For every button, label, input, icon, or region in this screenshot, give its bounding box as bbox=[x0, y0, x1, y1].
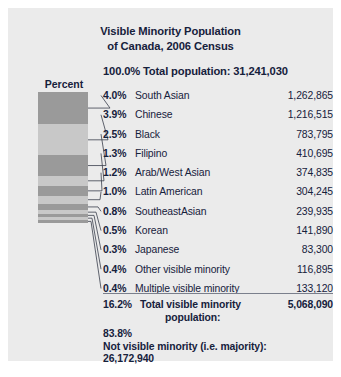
leader-line bbox=[88, 218, 101, 269]
percent-axis-label: Percent bbox=[36, 78, 92, 90]
bar-segment bbox=[38, 186, 88, 196]
row-count: 239,935 bbox=[296, 206, 333, 217]
row-category: Black bbox=[135, 129, 160, 140]
table-row: 2.5%Black783,795 bbox=[103, 129, 333, 148]
row-category: Arab/West Asian bbox=[135, 167, 210, 178]
leader-line bbox=[88, 215, 101, 250]
row-category: Chinese bbox=[135, 109, 172, 120]
row-count: 1,216,515 bbox=[288, 109, 333, 120]
total-label-line-1: Total visible minority bbox=[140, 299, 241, 310]
not-visible-minority-block: 83.8% Not visible minority (i.e. majorit… bbox=[103, 328, 333, 366]
row-count: 410,695 bbox=[296, 148, 333, 159]
bar-segment bbox=[38, 92, 88, 124]
data-row-list: 4.0%South Asian1,262,8653.9%Chinese1,216… bbox=[103, 90, 333, 302]
table-row: 4.0%South Asian1,262,865 bbox=[103, 90, 333, 109]
row-percent: 2.5% bbox=[103, 129, 126, 140]
bar-segment bbox=[38, 155, 88, 175]
row-percent: 4.0% bbox=[103, 90, 126, 101]
majority-value: 26,172,940 bbox=[103, 353, 333, 366]
leader-line bbox=[88, 192, 101, 200]
row-count: 83,300 bbox=[302, 244, 333, 255]
row-category: Latin American bbox=[135, 186, 202, 197]
figure-panel: Visible Minority Population of Canada, 2… bbox=[8, 8, 333, 361]
bar-segment bbox=[38, 176, 88, 186]
row-percent: 3.9% bbox=[103, 109, 126, 120]
row-count: 141,890 bbox=[296, 225, 333, 236]
total-percent: 16.2% bbox=[103, 299, 132, 310]
title-line-2: of Canada, 2006 Census bbox=[8, 39, 333, 54]
row-category: SoutheastAsian bbox=[135, 206, 206, 217]
bar-segment bbox=[38, 196, 88, 204]
row-category: South Asian bbox=[135, 90, 189, 101]
row-percent: 1.3% bbox=[103, 148, 126, 159]
row-percent: 0.4% bbox=[103, 264, 126, 275]
majority-label: Not visible minority (i.e. majority): bbox=[103, 341, 333, 354]
leader-line bbox=[88, 207, 101, 211]
row-count: 783,795 bbox=[296, 129, 333, 140]
total-population-subtitle: 100.0% Total population: 31,241,030 bbox=[103, 65, 331, 77]
row-count: 1,262,865 bbox=[288, 90, 333, 101]
bar-segment bbox=[38, 124, 88, 155]
table-row: 0.8%SoutheastAsian239,935 bbox=[103, 206, 333, 225]
total-label-line-2: population: bbox=[165, 312, 220, 323]
table-row: 0.3%Japanese83,300 bbox=[103, 244, 333, 263]
title-line-1: Visible Minority Population bbox=[8, 24, 333, 39]
table-row: 1.2%Arab/West Asian374,835 bbox=[103, 167, 333, 186]
row-percent: 0.8% bbox=[103, 206, 126, 217]
table-row: 1.3%Filipino410,695 bbox=[103, 148, 333, 167]
leader-line bbox=[88, 173, 102, 191]
row-count: 374,835 bbox=[296, 167, 333, 178]
page-title: Visible Minority Population of Canada, 2… bbox=[8, 24, 333, 53]
majority-percent: 83.8% bbox=[103, 328, 333, 341]
leader-line bbox=[88, 212, 101, 230]
row-percent: 1.2% bbox=[103, 167, 126, 178]
total-divider-rule bbox=[103, 293, 333, 294]
total-value: 5,068,090 bbox=[288, 299, 333, 310]
leader-line bbox=[88, 153, 104, 180]
table-row: 3.9%Chinese1,216,515 bbox=[103, 109, 333, 128]
leader-line bbox=[88, 221, 101, 288]
row-category: Korean bbox=[135, 225, 168, 236]
row-percent: 0.5% bbox=[103, 225, 126, 236]
row-category: Other visible minority bbox=[135, 264, 230, 275]
row-count: 304,245 bbox=[296, 186, 333, 197]
table-row: 0.5%Korean141,890 bbox=[103, 225, 333, 244]
stacked-bar bbox=[38, 92, 88, 223]
table-row: 0.4%Other visible minority116,895 bbox=[103, 264, 333, 283]
row-category: Filipino bbox=[135, 148, 167, 159]
row-percent: 0.3% bbox=[103, 244, 126, 255]
row-count: 116,895 bbox=[297, 264, 333, 275]
table-row: 1.0%Latin American304,245 bbox=[103, 186, 333, 205]
row-category: Japanese bbox=[135, 244, 179, 255]
bar-segment bbox=[38, 220, 88, 223]
row-percent: 1.0% bbox=[103, 186, 126, 197]
